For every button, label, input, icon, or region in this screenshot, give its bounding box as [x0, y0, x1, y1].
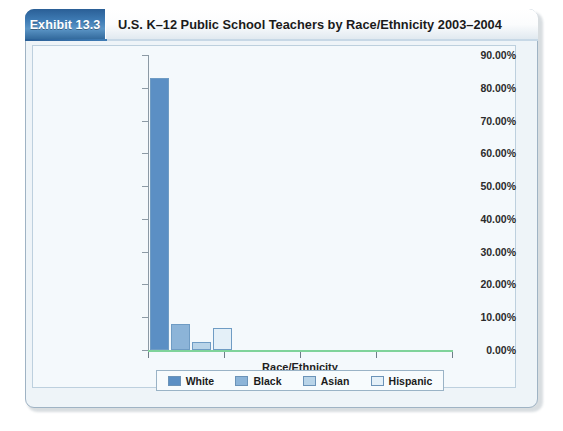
bar-chart: 90.00%80.00%70.00%60.00%50.00%40.00%30.0… — [32, 45, 516, 388]
legend-item-white[interactable]: White — [167, 375, 216, 387]
legend-label: Black — [253, 375, 281, 387]
exhibit-number-badge: Exhibit 13.3 — [25, 9, 106, 40]
bar-series — [149, 55, 452, 350]
page-title: U.S. K–12 Public School Teachers by Race… — [118, 17, 502, 32]
legend-item-hispanic[interactable]: Hispanic — [370, 375, 434, 387]
bar-white — [150, 78, 169, 350]
bar-asian — [192, 342, 211, 350]
bar-hispanic — [213, 328, 232, 350]
x-axis-tick — [452, 352, 453, 358]
legend-label: Hispanic — [389, 375, 433, 387]
exhibit-number-label: Exhibit 13.3 — [30, 18, 101, 32]
legend-swatch-icon — [168, 376, 181, 386]
x-axis-tick — [300, 352, 301, 358]
legend-label: Asian — [321, 375, 350, 387]
x-axis-tick — [224, 352, 225, 358]
legend-item-asian[interactable]: Asian — [302, 375, 351, 387]
x-axis-tick — [376, 352, 377, 358]
legend-swatch-icon — [303, 376, 316, 386]
legend-swatch-icon — [371, 376, 384, 386]
legend-item-black[interactable]: Black — [234, 375, 282, 387]
legend-label: White — [186, 375, 215, 387]
exhibit-title-bar: U.S. K–12 Public School Teachers by Race… — [106, 9, 538, 40]
exhibit-figure: Exhibit 13.3 U.S. K–12 Public School Tea… — [0, 0, 563, 431]
header-divider — [25, 39, 538, 41]
chart-legend: WhiteBlackAsianHispanic — [156, 370, 444, 391]
legend-swatch-icon — [235, 376, 248, 386]
bar-black — [171, 324, 190, 350]
exhibit-header: Exhibit 13.3 U.S. K–12 Public School Tea… — [25, 9, 538, 40]
x-axis-tick — [148, 352, 149, 358]
